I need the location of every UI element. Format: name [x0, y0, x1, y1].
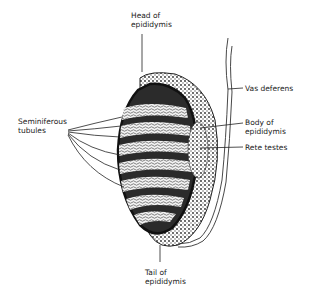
label-seminiferous-tubules: Seminiferous tubules [18, 117, 67, 135]
label-tail-of-epididymis: Tail of epididymis [145, 268, 186, 286]
rete-testis [188, 122, 208, 178]
leader-vas [228, 88, 243, 89]
label-body-of-epididymis: Body of epididymis [245, 118, 286, 136]
label-rete-testes: Rete testes [245, 143, 287, 152]
label-head-of-epididymis: Head of epididymis [131, 11, 172, 29]
leader-seminiferous [68, 117, 124, 187]
label-vas-deferens: Vas deferens [245, 84, 293, 93]
